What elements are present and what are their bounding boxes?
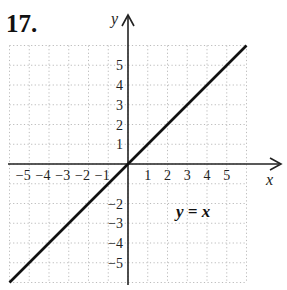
y-tick-label: −4 [108,236,123,251]
x-tick-label: −5 [16,168,31,183]
x-tick-label: −3 [55,168,70,183]
y-tick-label: 1 [116,137,123,152]
y-tick-label: 5 [116,58,123,73]
y-tick-label: −5 [108,256,123,271]
x-tick-label: −4 [36,168,51,183]
x-tick-label: 1 [144,168,151,183]
x-tick-label: 5 [223,168,230,183]
x-tick-label: −2 [75,168,90,183]
x-axis-label: x [265,171,273,188]
x-tick-label: 3 [184,168,191,183]
equation-label: y = x [174,202,211,221]
y-tick-label: −3 [108,216,123,231]
y-tick-label: 2 [116,118,123,133]
x-tick-label: −1 [95,168,110,183]
y-axis-label: y [109,10,119,28]
x-tick-label: 4 [204,168,211,183]
y-tick-label: −2 [108,197,123,212]
y-tick-label: 4 [116,78,123,93]
y-tick-label: 3 [116,98,123,113]
coordinate-plane: −5−4−3−2−11234554321−2−3−4−5 x y y = x [0,0,287,290]
x-tick-label: 2 [164,168,171,183]
